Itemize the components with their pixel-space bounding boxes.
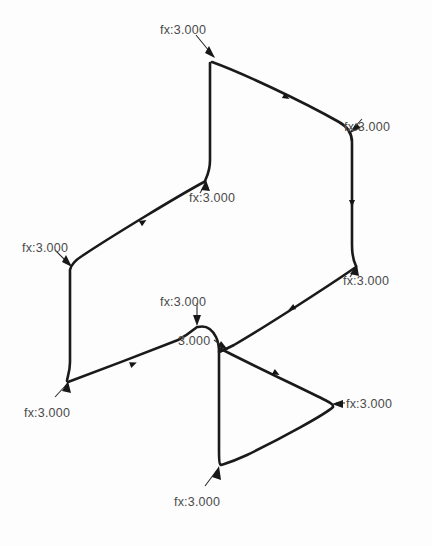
fx-label-left: fx:3.000 [22,242,68,255]
curve-top-right-diagonal [212,62,352,142]
fx-label-bottom: fx:3.000 [174,496,220,509]
fx-label-top: fx:3.000 [160,24,206,37]
fx-label-mid-right: fx:3.000 [343,275,389,288]
fx-label-center-upper: fx:3.000 [160,296,206,309]
fx-label-right: fx:3.000 [346,398,392,411]
diagram-canvas: fx:3.000 fx:3.000 fx:3.000 fx:3.000 fx:3… [0,0,432,546]
curve-triangle-left-vertical [219,353,220,464]
fx-label-bottom-left: fx:3.000 [24,407,70,420]
fx-label-mid-upper: fx:3.000 [189,192,235,205]
flow-marker-bottom-left [129,360,138,368]
fx-label-center-lower: 3.000 [178,335,210,348]
leader-fx-top [196,35,215,58]
curve-left-vertical [67,271,70,381]
fx-label-upper-right: fx:3.000 [344,121,390,134]
curve-triangle-bottom-right [221,407,333,465]
leader-fx-bottom-left [55,381,71,397]
curve-triangle-top-right [221,349,333,406]
diagram-geometry [0,0,432,546]
curve-mid-left-diagonal [70,182,204,270]
curve-mid-right-diagonal [219,267,356,352]
leader-fx-bottom [205,466,221,486]
flow-marker-right-vertical [349,200,355,207]
curve-top-segment [205,63,210,181]
